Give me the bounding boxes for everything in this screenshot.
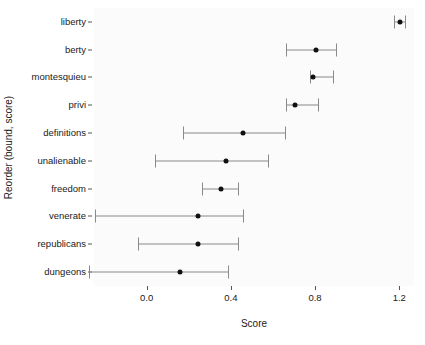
y-tick-mark — [88, 160, 92, 161]
y-tick-label: freedom — [51, 184, 86, 194]
chart-figure: Reorder (bound, score) libertybertymonte… — [0, 0, 425, 345]
y-tick-label: liberty — [61, 17, 86, 27]
data-row: dungeons — [94, 258, 414, 286]
error-bar-cap-high — [228, 266, 229, 279]
x-tick-label: 0.4 — [224, 293, 237, 303]
data-point — [219, 186, 224, 191]
x-tick-mark — [315, 286, 316, 290]
error-bar-line — [286, 49, 337, 50]
x-tick-label: 0.0 — [140, 293, 153, 303]
x-tick-mark — [399, 286, 400, 290]
error-bar-cap-high — [318, 99, 319, 112]
error-bar-cap-low — [89, 266, 90, 279]
y-tick-mark — [88, 49, 92, 50]
y-tick-mark — [88, 105, 92, 106]
y-tick-mark — [88, 216, 92, 217]
y-tick-label: montesquieu — [32, 73, 86, 83]
data-row: freedom — [94, 175, 414, 203]
error-bar-cap-low — [394, 15, 395, 28]
error-bar-cap-low — [286, 43, 287, 56]
error-bar-cap-low — [202, 182, 203, 195]
data-point — [241, 131, 246, 136]
data-point — [293, 103, 298, 108]
y-axis-title: Reorder (bound, score) — [2, 8, 16, 286]
error-bar-cap-high — [405, 15, 406, 28]
y-tick-label: republicans — [37, 240, 86, 250]
error-bar-cap-high — [285, 127, 286, 140]
error-bar-line — [138, 244, 238, 245]
data-row: republicans — [94, 230, 414, 258]
error-bar-line — [286, 105, 319, 106]
error-bar-line — [89, 272, 228, 273]
error-bar-cap-high — [336, 43, 337, 56]
data-row: liberty — [94, 8, 414, 36]
error-bar-line — [183, 133, 284, 134]
data-row: definitions — [94, 119, 414, 147]
x-axis-title: Score — [94, 318, 414, 329]
y-tick-mark — [88, 77, 92, 78]
error-bar-cap-high — [333, 71, 334, 84]
data-point — [223, 158, 228, 163]
data-point — [196, 214, 201, 219]
x-tick-label: 0.8 — [308, 293, 321, 303]
y-tick-mark — [88, 244, 92, 245]
data-row: unalienable — [94, 147, 414, 175]
y-tick-mark — [88, 133, 92, 134]
x-tick-mark — [147, 286, 148, 290]
y-tick-label: berty — [65, 45, 86, 55]
data-row: venerate — [94, 203, 414, 231]
error-bar-cap-low — [286, 99, 287, 112]
y-tick-mark — [88, 21, 92, 22]
data-row: berty — [94, 36, 414, 64]
error-bar-cap-high — [243, 210, 244, 223]
x-tick-label: 1.2 — [393, 293, 406, 303]
x-tick-mark — [231, 286, 232, 290]
y-tick-label: venerate — [49, 212, 86, 222]
plot-area: libertybertymontesquieuprividefinitionsu… — [94, 8, 414, 286]
y-tick-label: dungeons — [44, 267, 86, 277]
error-bar-cap-high — [268, 154, 269, 167]
error-bar-cap-high — [238, 238, 239, 251]
data-point — [398, 19, 403, 24]
y-tick-label: definitions — [43, 128, 86, 138]
error-bar-cap-low — [138, 238, 139, 251]
data-row: privi — [94, 91, 414, 119]
error-bar-line — [155, 160, 268, 161]
data-point — [178, 270, 183, 275]
y-tick-label: unalienable — [37, 156, 86, 166]
y-tick-label: privi — [69, 101, 86, 111]
y-tick-mark — [88, 188, 92, 189]
data-row: montesquieu — [94, 64, 414, 92]
error-bar-cap-low — [95, 210, 96, 223]
data-point — [310, 75, 315, 80]
data-point — [314, 47, 319, 52]
data-point — [196, 242, 201, 247]
error-bar-cap-low — [155, 154, 156, 167]
error-bar-cap-high — [238, 182, 239, 195]
error-bar-cap-low — [183, 127, 184, 140]
error-bar-line — [95, 216, 243, 217]
